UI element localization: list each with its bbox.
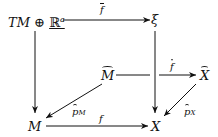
x-hat-text: X bbox=[200, 69, 209, 83]
label-f-bar: f bbox=[100, 5, 104, 15]
p-m-sub: M bbox=[78, 109, 85, 117]
label-f: f bbox=[99, 114, 103, 124]
node-xi: ξ bbox=[151, 13, 158, 27]
node-tm-plus-ra: TM ⊕ ℝa bbox=[8, 13, 65, 30]
p-x-sub: X bbox=[190, 109, 195, 117]
exponent-a: a bbox=[60, 15, 65, 24]
node-m: M bbox=[28, 120, 41, 134]
p-m-base: p bbox=[72, 107, 78, 117]
label-p-x-hat: pX bbox=[184, 107, 195, 118]
label-p-m-hat: pM bbox=[72, 107, 86, 118]
m-hat-text: M bbox=[101, 69, 114, 83]
node-m-hat: M bbox=[101, 69, 114, 83]
node-ra-field: ℝa bbox=[49, 15, 65, 30]
node-tm-text: TM ⊕ bbox=[8, 15, 49, 30]
f-hat-text: f bbox=[170, 62, 174, 72]
label-f-hat: f bbox=[170, 62, 174, 72]
reals-symbol: ℝ bbox=[49, 15, 60, 30]
node-x: X bbox=[151, 120, 160, 134]
f-bar-text: f bbox=[100, 5, 104, 15]
p-x-base: p bbox=[184, 107, 190, 117]
node-x-hat: X bbox=[200, 69, 209, 83]
